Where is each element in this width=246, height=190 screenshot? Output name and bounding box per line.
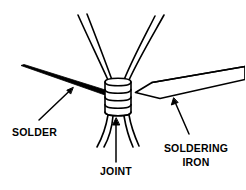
wire-upper-right-outer bbox=[129, 15, 164, 80]
wire-upper-left-inner bbox=[87, 14, 112, 80]
solder-leader-line bbox=[39, 90, 71, 120]
wire-joint-coil bbox=[105, 78, 131, 116]
figure-canvas: SOLDER JOINT SOLDERING IRON bbox=[0, 0, 245, 190]
iron-leader-line bbox=[175, 102, 189, 134]
label-joint: JOINT bbox=[100, 165, 132, 177]
wires-upper bbox=[78, 14, 164, 80]
soldering-illustration: SOLDER JOINT SOLDERING IRON bbox=[0, 0, 245, 190]
label-solder: SOLDER bbox=[12, 126, 57, 138]
coil-body bbox=[105, 78, 131, 116]
soldering-iron bbox=[136, 67, 246, 99]
leader-joint bbox=[113, 118, 120, 162]
label-soldering-iron-line2: IRON bbox=[182, 156, 209, 168]
wire-lower-right-inner bbox=[124, 116, 133, 147]
solder-bar bbox=[21, 65, 107, 96]
wire-lower-left-inner bbox=[104, 116, 113, 147]
iron-leader-arrowhead bbox=[171, 98, 178, 105]
solder-bar-body bbox=[21, 65, 107, 96]
wire-upper-left-outer bbox=[78, 15, 108, 80]
wire-upper-right-inner bbox=[124, 16, 155, 80]
leader-solder bbox=[39, 88, 73, 121]
joint-leader-arrowhead bbox=[113, 118, 120, 125]
label-soldering-iron-line1: SOLDERING bbox=[164, 142, 228, 154]
leader-soldering-iron bbox=[171, 98, 189, 134]
wires-lower bbox=[97, 115, 139, 147]
